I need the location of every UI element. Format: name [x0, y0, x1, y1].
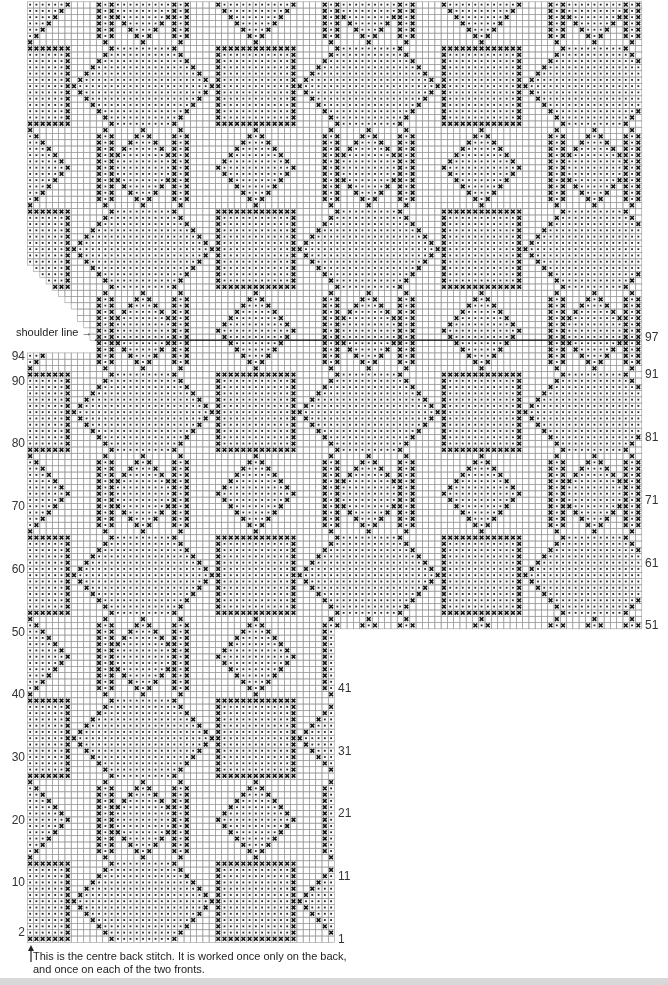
row-label-right-1: 1 [338, 933, 345, 945]
shoulder-line-text: shoulder line [16, 326, 78, 338]
row-label-right-31: 31 [338, 745, 351, 757]
row-label-left-30: 30 [1, 751, 25, 763]
row-label-left-10: 10 [1, 876, 25, 888]
row-label-right-81: 81 [645, 431, 658, 443]
row-label-left-2: 2 [1, 926, 25, 938]
row-label-right-41: 41 [338, 682, 351, 694]
row-label-right-91: 91 [645, 368, 658, 380]
page-bottom-edge [0, 978, 668, 985]
row-label-right-21: 21 [338, 807, 351, 819]
row-label-right-71: 71 [645, 494, 658, 506]
centre-back-stitch-note: This is the centre back stitch. It is wo… [33, 950, 347, 976]
note-line-1: This is the centre back stitch. It is wo… [33, 950, 347, 963]
row-label-left-60: 60 [1, 563, 25, 575]
row-label-left-80: 80 [1, 437, 25, 449]
row-label-right-11: 11 [338, 870, 350, 882]
row-label-left-70: 70 [1, 500, 25, 512]
row-label-right-61: 61 [645, 557, 658, 569]
row-label-left-94: 94 [1, 350, 25, 362]
row-label-left-90: 90 [1, 375, 25, 387]
row-label-right-97: 97 [645, 331, 658, 343]
row-label-left-20: 20 [1, 814, 25, 826]
arrow-right-icon: → [81, 326, 92, 338]
shoulder-line-label: shoulder line → [16, 326, 92, 338]
note-line-2: and once on each of the two fronts. [33, 963, 347, 976]
row-label-left-40: 40 [1, 688, 25, 700]
row-label-right-51: 51 [645, 619, 658, 631]
row-label-left-50: 50 [1, 626, 25, 638]
pattern-chart-grid [0, 0, 668, 985]
